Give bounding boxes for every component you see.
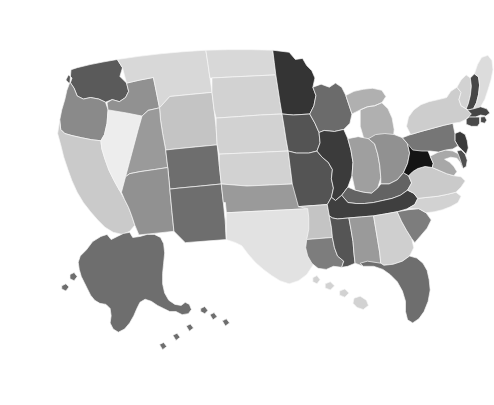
state-texas[interactable] [226, 209, 316, 284]
state-hawaii[interactable] [313, 276, 369, 310]
state-south-dakota[interactable] [212, 75, 282, 118]
state-wyoming[interactable] [160, 92, 218, 150]
state-connecticut[interactable] [466, 117, 479, 126]
state-new-mexico[interactable] [170, 184, 227, 243]
state-kansas[interactable] [219, 151, 292, 186]
state-colorado[interactable] [166, 145, 222, 189]
state-north-dakota[interactable] [206, 50, 276, 78]
choropleth-map-figure [0, 0, 494, 405]
us-choropleth-map [0, 0, 494, 405]
state-alaska[interactable] [62, 232, 230, 349]
states-layer [58, 50, 493, 350]
state-rhode-island[interactable] [481, 117, 487, 124]
state-nebraska[interactable] [216, 114, 288, 154]
state-florida[interactable] [360, 256, 430, 323]
state-wisconsin[interactable] [310, 83, 352, 132]
